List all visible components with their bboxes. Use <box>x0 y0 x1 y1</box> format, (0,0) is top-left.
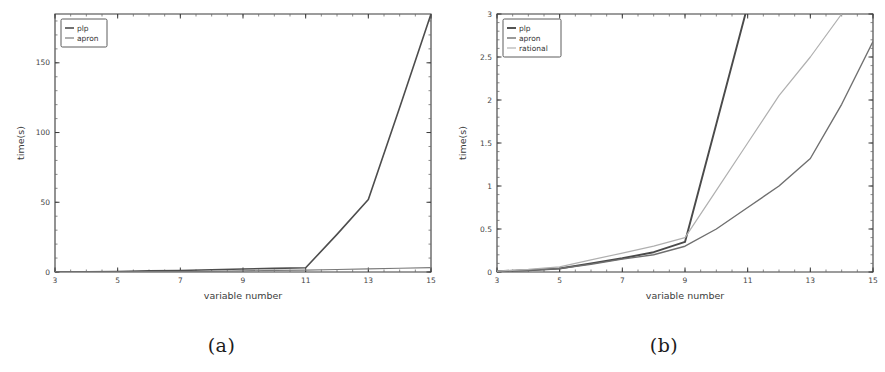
chart-a-wrapper: 3579111315050100150variable numbertime(s… <box>7 0 437 330</box>
x-tick-label: 13 <box>806 276 816 285</box>
series-line-plp <box>55 14 431 272</box>
y-tick-label: 2.5 <box>480 53 492 62</box>
x-tick-label: 3 <box>52 276 57 285</box>
y-tick-label: 0 <box>487 268 492 277</box>
x-tick-label: 5 <box>115 276 120 285</box>
x-tick-label: 13 <box>363 276 373 285</box>
y-tick-label: 1 <box>487 182 492 191</box>
y-axis-label: time(s) <box>15 126 26 160</box>
subfigure-b: 357911131500.511.522.53variable numberti… <box>443 0 885 356</box>
subfigure-a: 3579111315050100150variable numbertime(s… <box>0 0 443 356</box>
legend-label-apron: apron <box>77 34 99 43</box>
x-tick-label: 3 <box>495 276 500 285</box>
figure-panel-row: 3579111315050100150variable numbertime(s… <box>0 0 885 372</box>
x-tick-label: 11 <box>743 276 753 285</box>
legend-label-plp: plp <box>519 24 531 33</box>
chart-a[interactable]: 3579111315050100150variable numbertime(s… <box>7 0 437 330</box>
y-tick-label: 2 <box>487 96 492 105</box>
subfigure-b-caption: (b) <box>650 334 679 356</box>
y-tick-label: 0.5 <box>480 225 492 234</box>
x-tick-label: 7 <box>177 276 182 285</box>
legend-label-apron: apron <box>519 34 541 43</box>
x-tick-label: 11 <box>300 276 310 285</box>
chart-b-wrapper: 357911131500.511.522.53variable numberti… <box>449 0 879 330</box>
y-tick-label: 1.5 <box>480 139 492 148</box>
axis-frame <box>55 14 431 272</box>
y-axis-label: time(s) <box>457 126 468 160</box>
x-tick-label: 7 <box>620 276 625 285</box>
legend-label-plp: plp <box>77 24 89 33</box>
legend-label-rational: rational <box>519 44 548 53</box>
chart-b[interactable]: 357911131500.511.522.53variable numberti… <box>449 0 879 330</box>
subfigure-a-caption: (a) <box>208 334 236 356</box>
y-tick-label: 0 <box>45 268 50 277</box>
y-tick-label: 50 <box>40 198 50 207</box>
x-tick-label: 9 <box>683 276 688 285</box>
x-tick-label: 15 <box>426 276 436 285</box>
x-axis-label: variable number <box>203 290 282 301</box>
x-axis-label: variable number <box>646 290 725 301</box>
x-tick-label: 15 <box>868 276 878 285</box>
y-tick-label: 150 <box>35 58 50 67</box>
y-tick-label: 100 <box>35 128 50 137</box>
series-group <box>55 14 431 272</box>
x-tick-label: 5 <box>557 276 562 285</box>
y-tick-label: 3 <box>487 10 492 19</box>
x-tick-label: 9 <box>240 276 245 285</box>
